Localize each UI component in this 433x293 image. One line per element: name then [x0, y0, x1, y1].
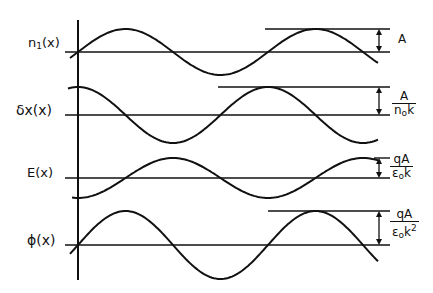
scale-label-qA-over-e0k: qA εok [390, 153, 413, 183]
wave-diagram [0, 0, 433, 293]
arrowhead-icon [376, 239, 382, 245]
label-n1: n1(x) [28, 35, 60, 51]
label-delta-x: δx(x) [16, 102, 52, 118]
arrowhead-icon [376, 109, 382, 115]
arrowhead-icon [376, 172, 382, 178]
arrowhead-icon [376, 46, 382, 52]
arrowhead-icon [376, 29, 382, 35]
label-phi: ϕ(x) [27, 232, 55, 248]
arrowhead-icon [376, 87, 382, 93]
scale-label-qA-over-e0k2: qA εok2 [390, 208, 419, 242]
scale-label-A: A [398, 32, 406, 46]
scale-label-A-over-n0k: A nok [392, 90, 416, 120]
arrowhead-icon [376, 211, 382, 217]
label-E: E(x) [27, 165, 53, 180]
